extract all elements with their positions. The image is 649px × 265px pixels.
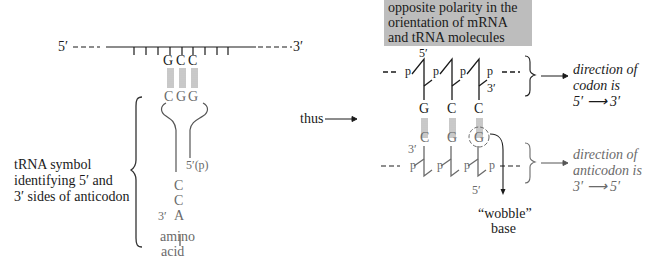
codon-strand bbox=[383, 59, 520, 100]
anticodon-brace bbox=[525, 143, 535, 183]
cca-base: C bbox=[174, 193, 183, 209]
anticodon-5prime-label: 5′ bbox=[472, 183, 481, 198]
codon-base: G bbox=[163, 53, 173, 69]
trna-stem bbox=[162, 103, 208, 246]
mrna-3prime-label: 3′ bbox=[293, 39, 303, 55]
thus-label: thus bbox=[300, 111, 323, 127]
trna-5p-label: 5′(p) bbox=[186, 158, 209, 173]
cca-base: A bbox=[174, 208, 184, 224]
wobble-label: “wobble” bbox=[478, 206, 532, 222]
thus-arrow bbox=[325, 117, 357, 122]
mrna-5prime-label: 5′ bbox=[58, 39, 68, 55]
wobble-label: base bbox=[491, 221, 516, 237]
codon-5prime-label: 5′ bbox=[419, 46, 428, 61]
anticodon-base: C bbox=[164, 89, 173, 105]
codon-3prime-label: 3′ bbox=[487, 81, 496, 96]
anticodon-base: G bbox=[188, 89, 198, 105]
amino-acid-label: amino bbox=[160, 229, 195, 245]
wobble-base: G bbox=[474, 130, 484, 146]
anticodon-direction-arrow bbox=[541, 161, 568, 166]
cca-base: C bbox=[174, 178, 183, 194]
amino-acid-label: acid bbox=[161, 244, 184, 260]
codon-brace bbox=[525, 56, 535, 96]
anticodon-3prime-label: 3′ bbox=[408, 142, 417, 157]
left-brace bbox=[131, 97, 142, 247]
codon-base: C bbox=[176, 53, 185, 69]
diagram-linework bbox=[0, 0, 649, 265]
hbond-hatches-left bbox=[167, 69, 198, 87]
trna-3prime-label: 3′ bbox=[158, 209, 167, 224]
anticodon-base: G bbox=[176, 89, 186, 105]
codon-base: C bbox=[188, 53, 197, 69]
anticodon-strand bbox=[381, 146, 520, 176]
codon-direction-arrow bbox=[541, 74, 568, 79]
polarity-callout: opposite polarity in the orientation of … bbox=[384, 0, 532, 46]
